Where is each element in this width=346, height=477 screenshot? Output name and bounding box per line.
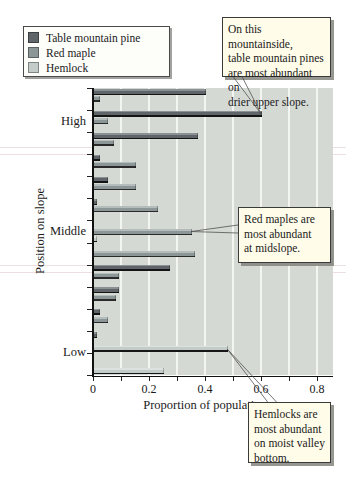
y-axis-title: Position on slope — [33, 188, 48, 274]
y-tick — [87, 375, 92, 376]
y-tick — [87, 220, 92, 221]
y-axis-line — [92, 88, 94, 377]
x-tick — [289, 377, 290, 381]
x-tick — [317, 377, 318, 381]
legend-item-label: Red maple — [46, 47, 96, 59]
bar-table-mountain-pine-pos10 — [94, 287, 119, 293]
y-tick — [87, 176, 92, 177]
legend-swatch — [28, 47, 39, 58]
y-tick — [87, 287, 92, 288]
bar-hemlock-pos13 — [94, 368, 164, 374]
bar-hemlock-pos7 — [94, 236, 97, 242]
bar-red-maple-pos5 — [94, 184, 136, 190]
bar-table-mountain-pine-pos6 — [94, 199, 97, 205]
y-tick — [87, 353, 92, 354]
y-tick — [87, 154, 92, 155]
figure-tree-distribution-chart: 00.20.40.60.8 HighMiddleLow Proportion o… — [0, 0, 346, 477]
bar-red-maple-pos9 — [94, 273, 119, 279]
x-tick-label: 0.4 — [190, 382, 220, 397]
legend: Table mountain pineRed mapleHemlock — [23, 26, 170, 77]
legend-item-red-maple: Red maple — [28, 45, 96, 60]
x-tick-label: 0.2 — [134, 382, 164, 397]
bar-table-mountain-pine-pos12 — [94, 332, 97, 338]
bar-table-mountain-pine-pos9 — [94, 265, 170, 271]
bar-table-mountain-pine-pos4 — [94, 155, 100, 161]
bar-table-mountain-pine-pos5 — [94, 177, 108, 183]
y-tick — [87, 309, 92, 310]
callout-hemlock-valley: Hemlocks are most abundant on moist vall… — [248, 402, 331, 463]
y-tick — [87, 110, 92, 111]
bar-red-maple-pos11 — [94, 317, 108, 323]
bar-red-maple-pos8 — [94, 251, 195, 257]
legend-swatch — [28, 32, 39, 43]
gridline — [232, 88, 234, 375]
callout-pine-upper-slope: On this mountainside, table mountain pin… — [222, 17, 331, 77]
x-tick — [205, 377, 206, 381]
bar-red-maple-pos1 — [94, 96, 100, 102]
x-tick-label: 0.8 — [302, 382, 332, 397]
bar-table-mountain-pine-pos3 — [94, 133, 198, 139]
legend-item-table-mountain-pine: Table mountain pine — [28, 30, 140, 45]
bar-table-mountain-pine-pos2 — [94, 111, 262, 117]
slope-label-low: Low — [40, 345, 86, 360]
legend-item-label: Hemlock — [46, 62, 88, 74]
x-tick — [93, 377, 94, 381]
callout-maple-midslope: Red maples are most abundant at midslope… — [238, 207, 331, 263]
gridline — [204, 88, 206, 375]
bar-table-mountain-pine-pos1 — [94, 89, 206, 95]
x-tick — [177, 377, 178, 381]
x-tick — [261, 377, 262, 381]
y-tick — [87, 198, 92, 199]
bar-table-mountain-pine-pos11 — [94, 309, 100, 315]
x-tick-label: 0 — [78, 382, 108, 397]
slope-label-high: High — [40, 114, 86, 129]
x-tick — [121, 377, 122, 381]
x-tick — [233, 377, 234, 381]
bar-red-maple-pos10 — [94, 295, 116, 301]
y-tick — [87, 243, 92, 244]
y-tick — [87, 132, 92, 133]
bar-red-maple-pos2 — [94, 118, 108, 124]
bar-hemlock-pos12 — [94, 346, 228, 352]
x-axis-line — [92, 376, 333, 378]
bar-red-maple-pos4 — [94, 162, 136, 168]
y-tick — [87, 88, 92, 89]
bar-red-maple-pos3 — [94, 140, 114, 146]
bar-red-maple-pos6 — [94, 206, 158, 212]
legend-item-hemlock: Hemlock — [28, 60, 88, 75]
x-tick — [149, 377, 150, 381]
y-tick — [87, 331, 92, 332]
y-tick — [87, 265, 92, 266]
x-tick-label: 0.6 — [246, 382, 276, 397]
bar-red-maple-pos7 — [94, 229, 192, 235]
legend-item-label: Table mountain pine — [46, 32, 140, 44]
legend-swatch — [28, 62, 39, 73]
